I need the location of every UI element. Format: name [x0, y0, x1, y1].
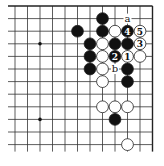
black-stone [122, 63, 134, 75]
move-number: 4 [124, 27, 130, 37]
star-point [38, 42, 42, 46]
move-number: 1 [124, 52, 130, 62]
black-stone-icon [122, 63, 134, 75]
white-stone [97, 63, 109, 75]
black-stone-icon [109, 38, 121, 50]
white-stone-icon [97, 51, 109, 63]
white-stone-icon [97, 63, 109, 75]
black-stone [97, 13, 109, 25]
go-board-diagram: 45321 ab [0, 0, 164, 166]
black-stone-icon [97, 25, 109, 37]
white-stone [97, 76, 109, 88]
black-stone-icon [122, 76, 134, 88]
black-stone-icon [84, 38, 96, 50]
black-stone-icon [109, 114, 121, 126]
black-stone [97, 25, 109, 37]
white-stone-icon [97, 101, 109, 113]
black-stone-icon [122, 38, 134, 50]
move-number: 5 [137, 27, 143, 37]
black-stone [122, 38, 134, 50]
white-stone: 3 [134, 38, 146, 50]
white-stone [97, 101, 109, 113]
white-stone-icon [134, 51, 146, 63]
white-stone: 1 [122, 51, 134, 63]
black-stone [84, 38, 96, 50]
move-number: 3 [137, 39, 143, 49]
white-stone [109, 101, 121, 113]
point-label: a [125, 13, 131, 24]
white-stone-icon [97, 76, 109, 88]
black-stone [109, 114, 121, 126]
point-label: b [112, 63, 118, 74]
black-stone-icon [84, 63, 96, 75]
white-stone-icon [122, 101, 134, 113]
black-stone [84, 63, 96, 75]
white-stone [97, 38, 109, 50]
white-stone [122, 139, 134, 151]
black-stone-icon [84, 51, 96, 63]
white-stone [122, 101, 134, 113]
move-number: 2 [112, 52, 118, 62]
black-stone [122, 76, 134, 88]
black-stone [72, 25, 84, 37]
white-stone-icon [122, 139, 134, 151]
white-stone-icon [109, 101, 121, 113]
black-stone: 2 [109, 51, 121, 63]
black-stone: 4 [122, 25, 134, 37]
white-stone [109, 25, 121, 37]
white-stone [134, 51, 146, 63]
white-stone-icon [97, 38, 109, 50]
black-stone [84, 51, 96, 63]
black-stone-icon [97, 13, 109, 25]
star-point [38, 118, 42, 122]
white-stone [97, 51, 109, 63]
black-stone [109, 38, 121, 50]
white-stone-icon [109, 25, 121, 37]
white-stone: 5 [134, 25, 146, 37]
black-stone-icon [72, 25, 84, 37]
